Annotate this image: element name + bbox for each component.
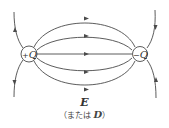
- arrow-right-icon: [84, 52, 89, 56]
- caption-suffix: ）: [102, 111, 110, 120]
- positive-charge-symbol: Q: [29, 49, 37, 60]
- negative-charge-symbol: Q: [140, 49, 148, 60]
- negative-sign: −: [133, 51, 140, 60]
- field-caption-d: （または D）: [0, 109, 169, 120]
- arrow-down-icon: [13, 80, 17, 85]
- field-caption-e: E: [0, 96, 169, 109]
- svg-text:−Q: −Q: [133, 49, 148, 60]
- arrow-right-icon: [84, 88, 89, 92]
- field-line-left-down: [14, 60, 23, 97]
- field-line-right-bottom: [147, 60, 156, 98]
- field-line-top-inner: [37, 37, 132, 50]
- caption-symbol-d: D: [93, 109, 102, 120]
- svg-text:+Q: +Q: [22, 49, 37, 60]
- field-line-bottom-inner: [37, 58, 132, 71]
- positive-charge: +Q: [21, 46, 37, 62]
- caption-prefix: （または: [59, 111, 94, 120]
- field-line-right-top: [147, 10, 155, 48]
- negative-charge: −Q: [133, 47, 148, 62]
- positive-sign: +: [22, 51, 29, 60]
- arrow-up-icon: [13, 27, 17, 32]
- arrow-right-icon: [84, 17, 89, 21]
